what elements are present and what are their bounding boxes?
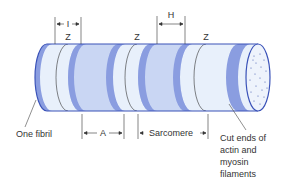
one-fibril-label: One fibril [16,129,52,139]
svg-text:actin and: actin and [220,145,257,155]
i-band-label: I [67,19,70,29]
sarcomere-label: Sarcomere [149,128,193,138]
svg-text:filaments: filaments [220,169,257,179]
z-line-label-3: Z [203,32,209,42]
svg-text:Cut ends of: Cut ends of [220,133,267,143]
a-band-label: A [100,128,106,138]
fibril-cylinder [30,40,270,115]
svg-text:myosin: myosin [220,157,249,167]
cut-end-face [246,44,270,111]
cut-ends-label: Cut ends of actin and myosin filaments [220,133,267,179]
myofibril-diagram: Z Z Z I H A Sarcomere On [0,0,282,193]
z-line-label-2: Z [134,32,140,42]
z-line-label-1: Z [65,32,71,42]
h-zone-bracket [157,16,185,44]
h-zone-label: H [168,10,175,20]
one-fibril-leader [25,100,36,127]
